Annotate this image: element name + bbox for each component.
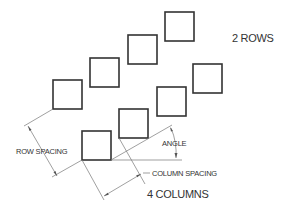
angle-label: ANGLE [162,140,186,148]
square-r1-c1 [53,80,82,109]
column-spacing-dimension [104,174,141,196]
column-spacing-label: COLUMN SPACING [152,170,217,178]
square-r2-c3 [157,87,186,116]
square-r2-c4 [193,64,222,93]
square-r1-c4 [165,12,194,41]
row-lower [82,64,222,160]
square-r2-c1 [82,131,111,160]
square-r1-c2 [90,58,119,87]
columns-label: 4 COLUMNS [147,189,208,200]
square-r1-c3 [128,35,157,64]
row-upper [53,12,194,109]
rows-label: 2 ROWS [232,33,274,44]
row-spacing-label: ROW SPACING [16,148,67,156]
square-r2-c2 [119,109,148,138]
